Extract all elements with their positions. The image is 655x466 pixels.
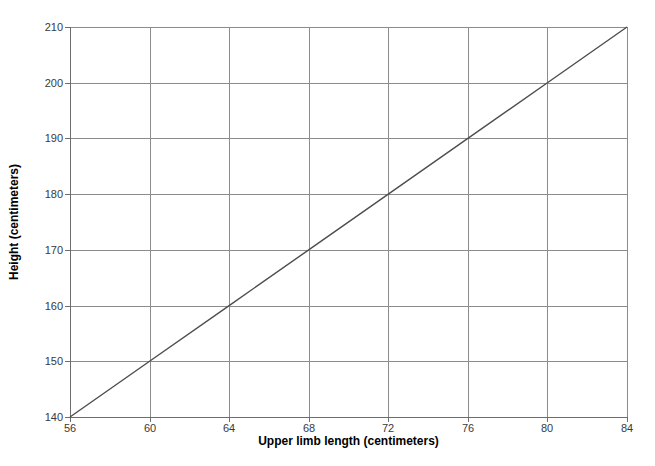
x-tick-label: 56 bbox=[64, 423, 76, 434]
y-tick-label: 200 bbox=[45, 78, 63, 89]
data-series-line bbox=[70, 27, 627, 417]
x-axis-spine bbox=[70, 417, 628, 418]
x-tick-label: 76 bbox=[462, 423, 474, 434]
x-tick-label: 68 bbox=[303, 423, 315, 434]
x-tick-label: 72 bbox=[382, 423, 394, 434]
x-axis-title: Upper limb length (centimeters) bbox=[70, 434, 627, 448]
y-axis-title-label: Height (centimeters) bbox=[7, 164, 21, 280]
gridline-vertical bbox=[627, 27, 628, 417]
x-tick-label: 60 bbox=[144, 423, 156, 434]
y-tick-label: 190 bbox=[45, 133, 63, 144]
y-tick-label: 160 bbox=[45, 301, 63, 312]
x-tick-label: 80 bbox=[541, 423, 553, 434]
x-tick-label: 64 bbox=[223, 423, 235, 434]
x-tick-label: 84 bbox=[621, 423, 633, 434]
y-tick-label: 150 bbox=[45, 356, 63, 367]
y-tick-label: 170 bbox=[45, 245, 63, 256]
x-axis-title-label: Upper limb length (centimeters) bbox=[258, 434, 439, 448]
y-tick-label: 210 bbox=[45, 22, 63, 33]
y-tick-label: 180 bbox=[45, 189, 63, 200]
plot-area: 140150160170180190200210 566064687276808… bbox=[70, 27, 627, 417]
y-tick-label: 140 bbox=[45, 412, 63, 423]
series-polyline bbox=[70, 27, 627, 417]
chart-figure: Height (centimeters) 1401501601701801902… bbox=[0, 0, 655, 466]
y-axis-title: Height (centimeters) bbox=[0, 27, 28, 417]
